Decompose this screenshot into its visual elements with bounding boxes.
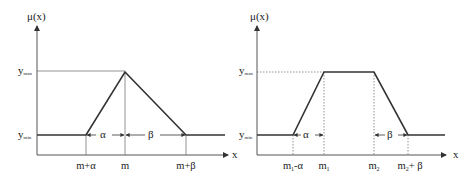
tick-m: m [121,160,129,171]
y-axis-label: μ(x) [250,10,269,23]
x-axis-label: x [232,148,238,160]
y-min-label: ymin [239,128,253,140]
tick-m1-minus-alpha: m1-α [283,160,304,172]
triangular-curve [37,72,225,135]
alpha-label: α [303,128,309,140]
membership-function-diagrams: μ(x) x ymax ymin α β m+α m m+β μ(x) [0,0,471,174]
tick-m-plus-beta: m+β [176,160,195,171]
triangular-chart: μ(x) x ymax ymin α β m+α m m+β [18,10,238,171]
beta-label: β [387,128,393,140]
beta-label: β [148,128,154,140]
tick-m2-plus-beta: m2+ β [397,160,422,172]
trapezoidal-curve [257,72,445,135]
trapezoidal-chart: μ(x) x ymax ymin α β m1-α m1 m2 m2+ β [239,10,459,172]
tick-m2: m2 [368,160,379,172]
alpha-label: α [100,128,106,140]
y-axis-label: μ(x) [27,10,46,23]
x-axis-label: x [453,148,459,160]
y-max-label: ymax [18,64,33,76]
tick-m1: m1 [318,160,329,172]
y-min-label: ymin [18,128,32,140]
tick-m-plus-alpha: m+α [76,160,96,171]
y-max-label: ymax [239,64,254,76]
